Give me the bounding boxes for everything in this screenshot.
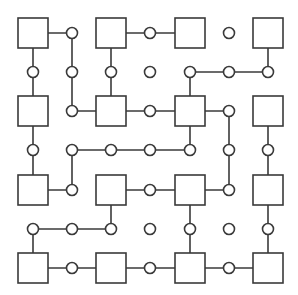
square-node xyxy=(18,175,48,205)
square-node xyxy=(175,96,205,126)
square-node xyxy=(253,175,283,205)
circle-junction xyxy=(106,224,117,235)
circle-junction xyxy=(185,145,196,156)
circle-junction xyxy=(224,224,235,235)
square-node xyxy=(96,253,126,283)
circle-junction xyxy=(145,263,156,274)
circle-junction xyxy=(67,145,78,156)
circle-junction xyxy=(67,263,78,274)
square-node xyxy=(175,253,205,283)
circle-junction xyxy=(224,106,235,117)
circle-junction xyxy=(224,185,235,196)
circle-junction xyxy=(224,145,235,156)
circle-junctions xyxy=(28,28,274,274)
circle-junction xyxy=(224,67,235,78)
circle-junction xyxy=(106,67,117,78)
square-node xyxy=(18,96,48,126)
circle-junction xyxy=(67,28,78,39)
circle-junction xyxy=(28,67,39,78)
circle-junction xyxy=(67,106,78,117)
grid-network-diagram xyxy=(0,0,298,295)
square-node xyxy=(253,253,283,283)
square-node xyxy=(96,18,126,48)
circle-junction xyxy=(263,67,274,78)
square-node xyxy=(96,175,126,205)
circle-junction xyxy=(145,106,156,117)
square-node xyxy=(18,18,48,48)
circle-junction xyxy=(185,224,196,235)
square-node xyxy=(175,18,205,48)
square-node xyxy=(96,96,126,126)
circle-junction xyxy=(145,224,156,235)
circle-junction xyxy=(67,185,78,196)
circle-junction xyxy=(28,224,39,235)
circle-junction xyxy=(28,145,39,156)
square-node xyxy=(18,253,48,283)
circle-junction xyxy=(67,224,78,235)
circle-junction xyxy=(145,67,156,78)
circle-junction xyxy=(263,224,274,235)
circle-junction xyxy=(185,67,196,78)
circle-junction xyxy=(224,28,235,39)
circle-junction xyxy=(67,67,78,78)
circle-junction xyxy=(106,145,117,156)
circle-junction xyxy=(145,185,156,196)
circle-junction xyxy=(224,263,235,274)
circle-junction xyxy=(263,145,274,156)
square-node xyxy=(175,175,205,205)
circle-junction xyxy=(145,28,156,39)
square-node xyxy=(253,96,283,126)
square-node xyxy=(253,18,283,48)
circle-junction xyxy=(145,145,156,156)
